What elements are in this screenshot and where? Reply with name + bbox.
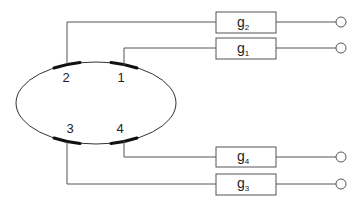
electrode-label-3: 3 [66, 121, 73, 136]
circuit-diagram: 2 1 3 4 g2 g1 g4 g3 [0, 0, 361, 206]
electrode-label-2: 2 [62, 70, 69, 85]
electrode-label-1: 1 [117, 70, 124, 85]
wire-electrode-4 [124, 141, 216, 157]
terminal-g1 [336, 43, 346, 53]
terminal-g4 [336, 152, 346, 162]
terminal-g3 [336, 179, 346, 189]
wire-electrode-1 [124, 48, 216, 65]
terminal-g2 [336, 17, 346, 27]
electrode-label-4: 4 [116, 121, 123, 136]
sample-ellipse [16, 62, 176, 144]
wire-electrode-2 [67, 22, 216, 64]
wire-electrode-3 [67, 142, 216, 184]
